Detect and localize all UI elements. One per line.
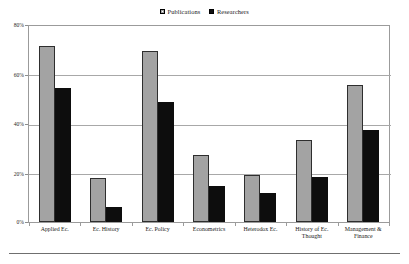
bottom-divider [9,253,400,254]
bars-layer [29,26,389,222]
bar-group [29,26,80,222]
bar-researchers[interactable] [106,207,122,222]
bar-group [183,26,234,222]
x-tick-mark [389,223,390,226]
x-tick-mark [80,223,81,226]
bar-group [338,26,389,222]
bar-publications[interactable] [142,51,158,223]
legend-entry-researchers: Researchers [209,8,248,15]
legend-label-researchers: Researchers [217,8,249,15]
bar-researchers[interactable] [260,193,276,222]
bar-researchers[interactable] [158,102,174,222]
bar-chart: Publications Researchers 80% 60% 40% 20%… [0,0,409,264]
bar-researchers[interactable] [312,177,328,222]
bar-publications[interactable] [347,85,363,222]
legend-swatch-researchers-icon [209,9,214,14]
bar-publications[interactable] [39,46,55,222]
bar-group [80,26,131,222]
bar-publications[interactable] [296,140,312,222]
y-axis: 80% 60% 40% 20% 0% [0,0,28,264]
x-tick-mark [235,223,236,226]
x-tick-mark [286,223,287,226]
bar-group [235,26,286,222]
x-tick-label: Ec. History [80,226,131,233]
x-tick-mark [183,223,184,226]
y-tick-label-20: 20% [14,171,24,177]
bar-group [132,26,183,222]
bar-publications[interactable] [193,155,209,222]
bar-researchers[interactable] [363,130,379,222]
x-tick-label: Econometrics [183,226,234,233]
x-tick-label: Management & Finance [338,226,389,241]
y-tick-label-60: 60% [14,72,24,78]
x-tick-label: Applied Ec. [29,226,80,233]
y-tick-label-80: 80% [14,22,24,28]
bar-publications[interactable] [90,178,106,222]
bar-group [286,26,337,222]
chart-legend: Publications Researchers [0,8,409,15]
bar-researchers[interactable] [209,186,225,222]
legend-swatch-publications-icon [160,9,165,14]
x-axis: Applied Ec.Ec. HistoryEc. PolicyEconomet… [29,226,389,260]
legend-label-publications: Publications [168,8,201,15]
x-tick-label: History of Ec. Thought [286,226,337,241]
y-tick-label-0: 0% [17,219,24,225]
y-tick-label-40: 40% [14,121,24,127]
x-tick-label: Ec. Policy [132,226,183,233]
bar-publications[interactable] [244,175,260,222]
x-tick-mark [132,223,133,226]
x-tick-mark [338,223,339,226]
bar-researchers[interactable] [55,88,71,222]
x-tick-mark [29,223,30,226]
x-tick-label: Heterodox Ec. [235,226,286,233]
legend-entry-publications: Publications [160,8,200,15]
